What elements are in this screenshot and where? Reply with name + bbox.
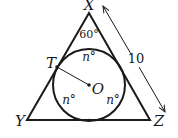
- tangent-point-bottom: [88, 119, 91, 122]
- point-label-t: T: [46, 54, 57, 72]
- radius-to: [57, 67, 89, 85]
- vertex-label-y: Y: [15, 112, 27, 130]
- angle-label-x: 60°: [79, 28, 99, 41]
- tangent-point-right: [119, 66, 122, 69]
- arc-label-top: n°: [82, 50, 96, 64]
- side-length-label: 10: [128, 51, 145, 66]
- arc-label-right: n°: [106, 93, 120, 107]
- point-label-o: O: [92, 80, 104, 98]
- vertex-label-z: Z: [153, 112, 165, 130]
- point-o: [87, 83, 91, 87]
- arc-label-left: n°: [62, 93, 76, 107]
- geometry-diagram: X Y Z T O 60° n° n° n° 10: [0, 0, 178, 138]
- dimension-arrow-line-lower: [139, 67, 165, 112]
- vertex-label-x: X: [83, 0, 96, 14]
